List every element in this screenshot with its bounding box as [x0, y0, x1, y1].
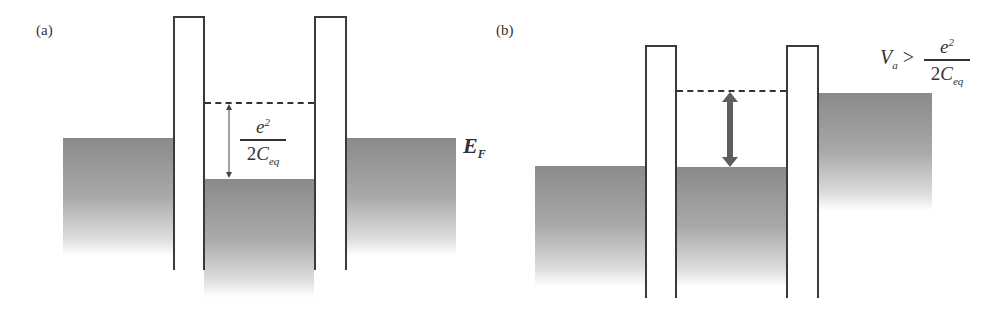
bias-double-arrow-icon [0, 0, 1003, 318]
